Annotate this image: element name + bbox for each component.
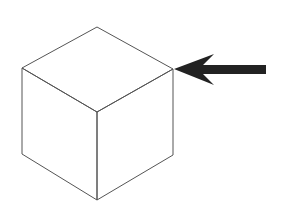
cube-top-face: [22, 27, 173, 112]
cube-arrow-diagram: [0, 0, 283, 211]
cube-right-face: [97, 69, 173, 200]
cube: [22, 27, 173, 200]
arrow-icon: [174, 54, 266, 85]
cube-left-face: [22, 68, 97, 200]
